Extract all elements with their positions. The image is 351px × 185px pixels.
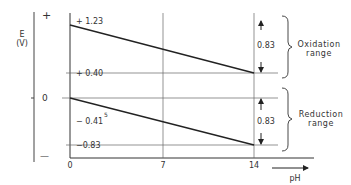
oxidation-brace xyxy=(282,16,292,78)
reduction-brace xyxy=(282,88,292,151)
minus-sign: — xyxy=(40,151,49,161)
x-tick-14: 14 xyxy=(249,161,259,170)
x-tick-0: 0 xyxy=(67,161,72,170)
level-top: + 1.23 xyxy=(76,17,103,26)
x-axis-label: pH xyxy=(289,174,300,183)
y-axis-label: E xyxy=(19,30,24,39)
e-scale-bar xyxy=(31,12,34,162)
grid-lines xyxy=(62,13,278,158)
oxygen-line xyxy=(70,25,254,73)
plus-sign: + xyxy=(42,9,51,22)
level-upper-mid: + 0.40 xyxy=(76,69,103,78)
oxidation-span-value: 0.83 xyxy=(257,41,275,50)
reduction-range-label-1: Reduction xyxy=(299,110,344,119)
x-tick-7: 7 xyxy=(160,161,165,170)
level-bottom: −0.83 xyxy=(76,141,101,150)
zero-sign: 0 xyxy=(42,93,48,103)
oxidation-range-label-2: range xyxy=(306,49,332,58)
reduction-range-label-2: range xyxy=(308,119,334,128)
level-lower-mid: − 0.41 xyxy=(76,117,103,126)
reduction-span-value: 0.83 xyxy=(257,117,275,126)
oxidation-range-label-1: Oxidation xyxy=(297,40,340,49)
e-ph-diagram: + 0 — E (V) + 1.23 + 0.40 − 0.41 5 −0.83… xyxy=(0,0,351,185)
level-lower-mid-sup: 5 xyxy=(104,111,108,118)
y-axis-unit: (V) xyxy=(16,39,28,48)
